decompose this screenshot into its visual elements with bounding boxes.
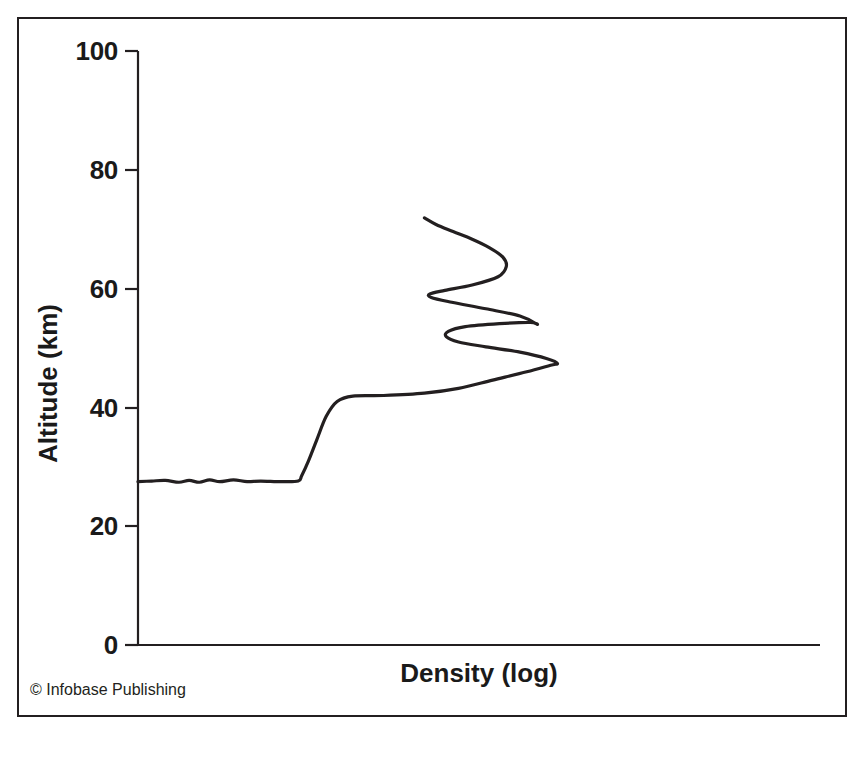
y-axis-title: Altitude (km)	[33, 284, 64, 484]
figure-root: 100 80 60 40 20 0 Altitude (km) Density …	[0, 0, 865, 757]
x-axis-title: Density (log)	[138, 658, 820, 689]
copyright-credit: © Infobase Publishing	[30, 681, 186, 699]
y-tick-label-40: 40	[60, 393, 118, 424]
chart-plot-area	[0, 0, 865, 757]
y-tick-label-20: 20	[60, 511, 118, 542]
density-profile-curve	[138, 218, 558, 482]
y-tick-label-60: 60	[60, 274, 118, 305]
y-tick-label-80: 80	[60, 155, 118, 186]
y-tick-label-100: 100	[60, 36, 118, 67]
y-tick-label-0: 0	[60, 630, 118, 661]
y-axis-ticks	[125, 51, 138, 645]
